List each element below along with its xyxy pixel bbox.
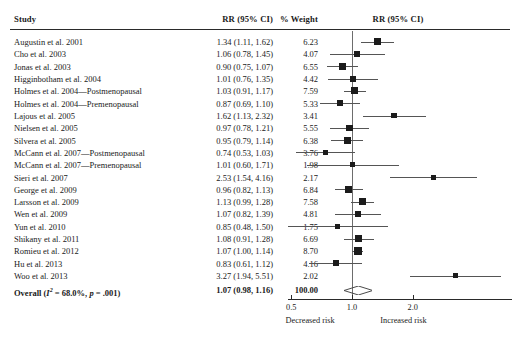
effect-marker [453,273,458,278]
axis-tick-label: 1.0 [347,303,357,312]
study-label: Jonas et al. 2003 [14,62,71,72]
axis-label-increased-risk: Increased risk [380,316,426,325]
plot-header-effect: RR (95% CI) [373,14,424,24]
axis-tick [352,295,353,299]
axis-tick [413,295,414,299]
study-label: Woo et al. 2013 [14,271,68,281]
effect-marker [359,198,366,205]
effect-marker [350,76,356,82]
overall-label: Overall (I2 = 68.0%, p = .001) [14,285,120,298]
study-label: Romieu et al. 2012 [14,246,79,256]
effect-marker [374,38,381,45]
study-label: Holmes et al. 2004—Postmenopausal [14,86,142,96]
effect-marker [355,211,361,217]
column-header-study: Study [14,14,36,24]
overall-label-mid: = 68.0%, [53,288,90,298]
forest-plot-figure: Study RR (95% CI) % Weight RR (95% CI) A… [0,0,532,347]
study-label: McCann et al. 2007—Postmenopausal [14,148,145,158]
effect-marker [355,235,362,242]
study-label: Hu et al. 2013 [14,259,62,269]
effect-marker [339,63,346,70]
effect-marker [333,260,339,266]
study-label: Cho et al. 2003 [14,49,66,59]
study-label: Yun et al. 2010 [14,222,65,232]
column-header-weight: % Weight [258,14,318,24]
overall-label-prefix: Overall ( [14,288,46,298]
effect-marker [350,162,355,167]
effect-marker [431,175,436,180]
effect-marker [391,113,397,119]
study-label: Shikany et al. 2011 [14,234,79,244]
study-label: Sieri et al. 2007 [14,173,68,183]
study-label: Augustin et al. 2001 [14,37,83,47]
study-label: George et al. 2009 [14,185,77,195]
summary-diamond [344,286,373,295]
effect-marker [345,186,352,193]
axis-label-decreased-risk: Decreased risk [286,316,335,325]
effect-marker [323,150,329,156]
x-axis-line [288,299,512,300]
plot-panel: 0.51.02.0Decreased riskIncreased risk [285,28,525,318]
axis-tick [291,295,292,299]
overall-label-suffix: = .001) [94,288,121,298]
effect-marker [354,51,360,57]
effect-marker [344,137,351,144]
study-label: Larsson et al. 2009 [14,197,79,207]
study-label: Wen et al. 2009 [14,209,67,219]
study-label: McCann et al. 2007—Premenopausal [14,160,141,170]
effect-marker [335,224,340,229]
study-label: Holmes et al. 2004—Premenopausal [14,99,139,109]
effect-marker [337,100,343,106]
effect-marker [354,247,361,254]
effect-marker [346,125,352,131]
axis-tick-label: 0.5 [286,303,296,312]
axis-tick-label: 2.0 [408,303,418,312]
study-label: Higginbotham et al. 2004 [14,74,101,84]
study-label: Lajous et al. 2005 [14,111,75,121]
study-label: Silvera et al. 2005 [14,136,76,146]
study-label: Nielsen et al. 2005 [14,123,78,133]
effect-marker [351,87,358,94]
